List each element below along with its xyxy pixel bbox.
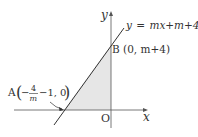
point-A-letter: A	[7, 86, 16, 98]
coordinate-diagram: y x O y = mx+m+4 B (0, m+4) A ( − 4 m −1…	[0, 0, 198, 137]
point-A-close-paren: )	[64, 83, 70, 102]
origin-label: O	[101, 112, 110, 125]
point-B-coords: (0, m+4)	[123, 43, 170, 55]
x-axis-label: x	[143, 110, 150, 124]
y-axis-label: y	[100, 8, 108, 22]
shaded-triangle-AOB	[64, 45, 111, 110]
point-A-rest: −1, 0	[39, 87, 66, 98]
point-B-label: B (0, m+4)	[112, 43, 170, 55]
point-A-frac-den: m	[30, 94, 38, 103]
point-A-neg-sign: −	[21, 87, 29, 98]
y-axis-arrow-icon	[109, 11, 113, 16]
point-A-frac-num: 4	[31, 84, 36, 93]
line-equation-label: y = mx+m+4	[125, 19, 198, 31]
point-A-label: A ( − 4 m −1, 0 )	[7, 83, 70, 103]
equation-rhs: mx+m+4	[149, 19, 198, 31]
equation-lhs: y	[125, 19, 133, 31]
point-B-letter: B	[112, 43, 120, 55]
equation-eq: =	[136, 19, 145, 31]
